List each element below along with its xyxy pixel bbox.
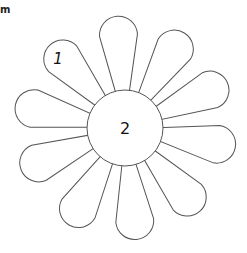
center-label: 2 bbox=[120, 119, 130, 138]
petal-label: 1 bbox=[53, 50, 63, 68]
flower-diagram: 2 1 bbox=[0, 0, 247, 253]
petal bbox=[98, 15, 141, 97]
petal bbox=[109, 158, 155, 242]
